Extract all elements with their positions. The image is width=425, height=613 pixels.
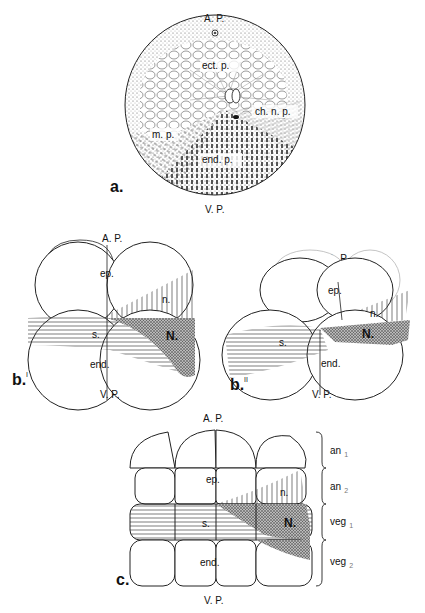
b1-N-label: N. <box>166 329 178 343</box>
b2-end-label: end. <box>321 358 340 369</box>
b2-N-label: N. <box>362 327 374 341</box>
panel-b1-animal-pole-label: A. P. <box>102 233 122 244</box>
c-n-label: n. <box>280 487 288 498</box>
panel-c-vegetal-pole-label: V. P. <box>204 595 223 606</box>
panel-a-label: a. <box>110 178 123 195</box>
panel-c: A. P. ep. n. N. s. end. c. V. P. <box>116 413 353 606</box>
embryo-fate-map-figure: A. P. ect. p. ch. n. p. <box>0 0 425 613</box>
mesoderm-label: m. p. <box>152 129 174 140</box>
b2-n-label: n. <box>370 308 378 319</box>
c-ep-label: ep. <box>206 474 220 485</box>
panel-b1-label: b. <box>12 371 26 388</box>
endoderm-label: end. p. <box>202 154 233 165</box>
panel-b1-vegetal-pole-label: V. P. <box>100 389 119 400</box>
c-end-label: end. <box>200 557 219 568</box>
tier-an2-label: an2 <box>330 481 348 494</box>
tier-an1-label: an1 <box>330 445 348 458</box>
panel-a-vegetal-pole-label: V. P. <box>205 204 224 215</box>
panel-b2-vegetal-pole-label: V. P. <box>312 389 331 400</box>
tier-braces <box>316 432 326 586</box>
tier-veg2-label: veg2 <box>330 556 353 569</box>
panel-b1-superscript: I <box>26 371 28 378</box>
c-N-label: N. <box>284 516 296 530</box>
chordaneural-label: ch. n. p. <box>255 106 291 117</box>
panel-b2: A. P. ep. n. N. s. end. b. II V. P. <box>222 250 410 400</box>
panel-b2-label: b. <box>230 376 244 393</box>
tier-veg1-label: veg1 <box>330 516 353 529</box>
ectoderm-label: ect. p. <box>202 60 229 71</box>
panel-b1: A. P. ep. n. N. s. end. b. I V. P. <box>12 233 200 410</box>
b2-ep-label: ep. <box>328 285 342 296</box>
b1-end-label: end. <box>90 359 109 370</box>
b1-s-label: s. <box>92 329 100 340</box>
b1-n-label: n. <box>162 294 170 305</box>
panel-b2-superscript: II <box>244 376 248 383</box>
b2-s-label: s. <box>279 337 287 348</box>
b1-ep-label: ep. <box>100 268 114 279</box>
c-s-label: s. <box>202 518 210 529</box>
panel-c-label: c. <box>116 571 129 588</box>
panel-a: A. P. ect. p. ch. n. p. <box>110 13 305 215</box>
panel-c-animal-pole-label: A. P. <box>203 413 223 424</box>
